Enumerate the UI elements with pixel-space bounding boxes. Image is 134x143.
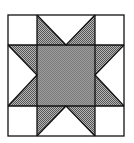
- quilt-block-diagram: [0, 0, 134, 143]
- center-square: [37, 45, 95, 106]
